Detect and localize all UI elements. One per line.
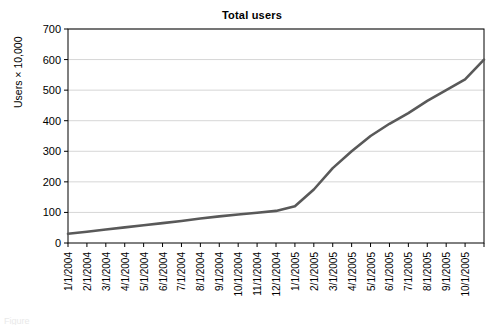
x-tick-label: 3/1/2004 [101,252,112,291]
x-tick-label: 8/1/2005 [422,252,433,291]
x-tick-label: 6/1/2004 [158,252,169,291]
x-tick-label: 4/1/2004 [120,252,131,291]
x-tick-label: 2/1/2005 [309,252,320,291]
chart-figure: Total users Users × 10,000 0100200300400… [0,0,504,325]
x-tick-label: 2/1/2004 [82,252,93,291]
y-tick-label: 100 [43,206,61,218]
clipped-caption: Figure [4,316,30,325]
x-tick-label: 1/1/2005 [290,252,301,291]
y-tick-label: 300 [43,145,61,157]
x-tick-label: 5/1/2004 [139,252,150,291]
x-tick-label: 10/1/2004 [233,252,244,297]
x-tick-label: 4/1/2005 [347,252,358,291]
x-tick-label: 6/1/2005 [384,252,395,291]
x-tick-label: 7/1/2004 [176,252,187,291]
x-tick-label: 9/1/2005 [441,252,452,291]
x-tick-label: 3/1/2005 [328,252,339,291]
y-tick-label: 200 [43,176,61,188]
plot-area: 01002003004005006007001/1/20042/1/20043/… [0,0,504,325]
series-line-total-users [68,60,484,234]
x-tick-label: 8/1/2004 [195,252,206,291]
y-tick-label: 500 [43,84,61,96]
x-tick-label: 9/1/2004 [214,252,225,291]
y-tick-label: 400 [43,115,61,127]
y-tick-label: 700 [43,23,61,35]
x-tick-label: 7/1/2005 [403,252,414,291]
y-tick-label: 600 [43,54,61,66]
x-tick-label: 5/1/2005 [366,252,377,291]
x-tick-label: 11/1/2004 [252,252,263,296]
y-tick-label: 0 [55,237,61,249]
x-tick-label: 10/1/2005 [460,252,471,297]
x-tick-label: 12/1/2004 [271,252,282,297]
x-tick-label: 1/1/2004 [63,252,74,291]
